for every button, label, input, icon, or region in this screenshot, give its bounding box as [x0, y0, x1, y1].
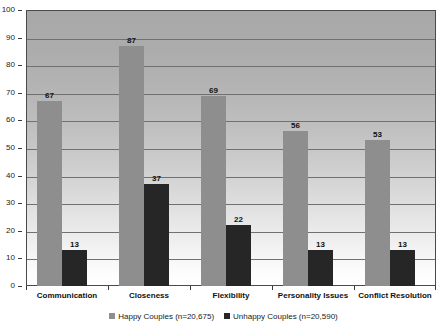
bar-unhappy: 22	[226, 225, 251, 286]
bar-unhappy: 13	[62, 250, 87, 286]
legend-swatch-icon	[109, 313, 115, 319]
legend-swatch-icon	[224, 313, 230, 319]
bar-group: 8737	[108, 10, 190, 286]
y-axis-tick-mark	[18, 203, 22, 204]
y-axis-tick-mark	[18, 176, 22, 177]
bar-value-label: 67	[37, 91, 62, 100]
bar-value-label: 56	[283, 121, 308, 130]
bar-unhappy: 13	[390, 250, 415, 286]
x-axis-category-label: Communication	[37, 291, 97, 301]
bar-value-label: 69	[201, 86, 226, 95]
bar-group: 6713	[26, 10, 108, 286]
x-axis-tick-mark	[435, 286, 436, 290]
y-axis-tick-label: 20	[6, 227, 15, 235]
x-axis: CommunicationClosenessFlexibilityPersona…	[26, 286, 436, 306]
y-axis-tick-mark	[18, 10, 22, 11]
bar-happy: 69	[201, 96, 226, 286]
y-axis-tick-label: 90	[6, 34, 15, 42]
x-axis-tick-mark	[354, 286, 355, 290]
chart-legend: Happy Couples (n=20,675)Unhappy Couples …	[0, 309, 447, 323]
x-axis-category-label: Conflict Resolution	[358, 291, 431, 301]
bar-value-label: 13	[390, 240, 415, 249]
y-axis-tick-label: 50	[6, 144, 15, 152]
y-axis-tick-label: 30	[6, 199, 15, 207]
y-axis-tick-mark	[18, 148, 22, 149]
y-axis-tick-label: 10	[6, 254, 15, 262]
bar-happy: 53	[365, 140, 390, 286]
x-axis-tick-mark	[26, 286, 27, 290]
x-axis-category-label: Flexibility	[213, 291, 250, 301]
bar-happy: 67	[37, 101, 62, 286]
y-axis-tick-label: 40	[6, 172, 15, 180]
y-axis-tick-mark	[18, 286, 22, 287]
bar-chart: 0102030405060708090100 67138737692256135…	[0, 0, 447, 325]
y-axis-tick-mark	[18, 231, 22, 232]
bars-layer: 67138737692256135313	[26, 10, 436, 286]
x-axis-category-label: Personality Issues	[278, 291, 348, 301]
y-axis-tick-label: 80	[6, 61, 15, 69]
y-axis-tick-label: 100	[2, 6, 15, 14]
bar-group: 6922	[190, 10, 272, 286]
bar-value-label: 87	[119, 36, 144, 45]
x-axis-tick-mark	[190, 286, 191, 290]
y-axis-tick-label: 70	[6, 89, 15, 97]
y-axis-tick-mark	[18, 120, 22, 121]
legend-item: Unhappy Couples (n=20,590)	[224, 312, 338, 321]
y-axis-tick-mark	[18, 65, 22, 66]
bar-value-label: 37	[144, 174, 169, 183]
y-axis-tick-mark	[18, 258, 22, 259]
bar-value-label: 53	[365, 130, 390, 139]
bar-unhappy: 13	[308, 250, 333, 286]
bar-unhappy: 37	[144, 184, 169, 286]
bar-happy: 87	[119, 46, 144, 286]
bar-value-label: 13	[62, 240, 87, 249]
legend-label: Unhappy Couples (n=20,590)	[233, 312, 338, 321]
bar-group: 5313	[354, 10, 436, 286]
x-axis-tick-mark	[108, 286, 109, 290]
bar-value-label: 22	[226, 215, 251, 224]
legend-item: Happy Couples (n=20,675)	[109, 312, 214, 321]
legend-label: Happy Couples (n=20,675)	[118, 312, 214, 321]
bar-happy: 56	[283, 131, 308, 286]
y-axis-tick-mark	[18, 38, 22, 39]
y-axis: 0102030405060708090100	[0, 10, 22, 286]
y-axis-tick-mark	[18, 93, 22, 94]
bar-group: 5613	[272, 10, 354, 286]
x-axis-category-label: Closeness	[129, 291, 169, 301]
bar-value-label: 13	[308, 240, 333, 249]
x-axis-tick-mark	[272, 286, 273, 290]
y-axis-tick-label: 0	[11, 282, 15, 290]
y-axis-tick-label: 60	[6, 116, 15, 124]
